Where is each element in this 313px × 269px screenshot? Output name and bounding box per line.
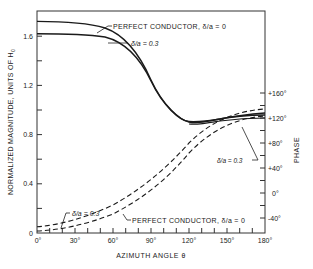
y2-tick-label: +120°	[268, 115, 287, 122]
y-tick-label: 1.2	[23, 82, 33, 89]
x-tick-label: 0°	[35, 237, 42, 244]
x-tick-label: 60°	[108, 237, 119, 244]
y2-tick-label: +160°	[268, 90, 287, 97]
x-tick-label: 150°	[220, 237, 235, 244]
annotation-perfect-conductor-bottom: PERFECT CONDUCTOR, δ/a = 0	[132, 217, 245, 224]
x-tick-label: 90°	[146, 237, 157, 244]
leader-line	[123, 214, 127, 220]
y2-axis-ticks	[260, 93, 265, 218]
y-tick-label: 0.8	[23, 131, 33, 138]
y-axis-ticks	[37, 36, 42, 208]
annotation-delta-03-top: δ/a = 0.3	[131, 40, 159, 47]
y-axis-title-subscript: 0	[10, 49, 16, 52]
annotation-perfect-conductor-top: PERFECT CONDUCTOR, δ/a = 0	[113, 23, 226, 30]
y2-axis-title: PHASE	[293, 137, 300, 163]
x-tick-label: 30°	[70, 237, 81, 244]
x-tick-label: 120°	[182, 237, 197, 244]
y-tick-label: 0	[29, 230, 33, 237]
x-tick-label: 180°	[258, 237, 273, 244]
magnitude-curve-delta-0.3	[37, 34, 265, 122]
leader-line	[61, 213, 66, 228]
chart: 0° 30° 60° 90° 120° 150° 180° 0 0.4 0.8 …	[0, 0, 313, 269]
x-axis-ticks	[50, 228, 253, 233]
magnitude-curve-perfect-conductor	[37, 21, 265, 122]
leader-line	[242, 127, 258, 160]
annotation-delta-03-right: δ/a = 0.3	[217, 157, 243, 164]
y2-tick-label: -40°	[268, 215, 281, 222]
y-tick-label: 1.6	[23, 33, 33, 40]
x-axis-title: AZIMUTH ANGLE θ	[116, 252, 186, 259]
y2-tick-label: +40°	[268, 165, 283, 172]
y2-tick-label: +80°	[268, 140, 283, 147]
annotation-delta-03-bottom: δ/a = 0.3	[72, 210, 100, 217]
y-axis-title: NORMALIZED MAGNITUDE, UNITS OF H0	[7, 49, 16, 195]
y-tick-label: 0.4	[23, 180, 33, 187]
y2-tick-label: 0°	[272, 190, 279, 197]
